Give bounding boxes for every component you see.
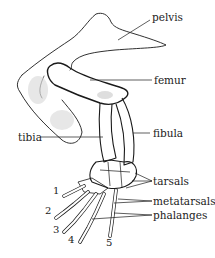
leader-phalanges-1 (114, 213, 152, 215)
tarsals-bones (90, 160, 137, 189)
label-phalanges: phalanges (153, 210, 207, 221)
hind-limb-diagram: pelvis femur tibia fibula tarsals metata… (0, 0, 215, 258)
digit-label-2: 2 (45, 206, 51, 216)
femur-bone (48, 63, 128, 104)
leader-phalanges-2 (92, 215, 152, 219)
tibia-bone (99, 103, 116, 162)
leader-tarsals-1 (135, 173, 152, 181)
digit-label-3: 3 (53, 225, 59, 235)
label-metatarsals: metatarsals (153, 196, 215, 207)
digit-label-5: 5 (106, 238, 112, 248)
label-pelvis: pelvis (152, 12, 183, 23)
leader-metatarsals-1 (118, 199, 152, 201)
label-femur: femur (154, 75, 186, 86)
digit-label-4: 4 (68, 235, 74, 245)
label-tarsals: tarsals (153, 176, 189, 187)
digit-label-1: 1 (53, 186, 59, 196)
leader-metatarsals-2 (114, 201, 152, 203)
pelvis-bone (22, 13, 166, 75)
fibula-bone (116, 98, 134, 165)
label-fibula: fibula (153, 128, 183, 139)
label-tibia: tibia (18, 132, 42, 143)
